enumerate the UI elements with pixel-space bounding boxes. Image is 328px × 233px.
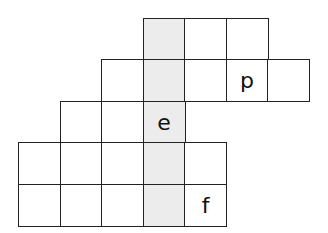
grid-cell-r2-c7[interactable] — [267, 59, 310, 102]
grid-cell-r5-c4[interactable] — [143, 184, 186, 227]
grid-cell-r4-c3[interactable] — [101, 142, 144, 185]
grid-cell-r2-c5[interactable] — [184, 59, 227, 102]
cell-letter: p — [240, 68, 254, 93]
grid-cell-r5-c3[interactable] — [101, 184, 144, 227]
grid-cell-r5-c5[interactable]: f — [184, 184, 227, 227]
grid-cell-r1-c4[interactable] — [143, 18, 186, 61]
cell-letter: e — [157, 110, 171, 135]
grid-cell-r2-c6[interactable]: p — [226, 59, 269, 102]
grid-cell-r4-c2[interactable] — [60, 142, 103, 185]
grid-cell-r1-c5[interactable] — [184, 18, 227, 61]
grid-cell-r3-c4[interactable]: e — [143, 101, 186, 144]
grid-cell-r4-c4[interactable] — [143, 142, 186, 185]
grid-cell-r1-c6[interactable] — [226, 18, 269, 61]
grid-cell-r3-c3[interactable] — [101, 101, 144, 144]
grid-cell-r4-c1[interactable] — [18, 142, 61, 185]
grid-cell-r4-c5[interactable] — [184, 142, 227, 185]
grid-cell-r2-c3[interactable] — [101, 59, 144, 102]
crossword-grid: pef — [0, 0, 328, 233]
cell-letter: f — [202, 193, 210, 218]
grid-cell-r3-c2[interactable] — [60, 101, 103, 144]
grid-cell-r5-c1[interactable] — [18, 184, 61, 227]
grid-cell-r5-c2[interactable] — [60, 184, 103, 227]
grid-cell-r2-c4[interactable] — [143, 59, 186, 102]
